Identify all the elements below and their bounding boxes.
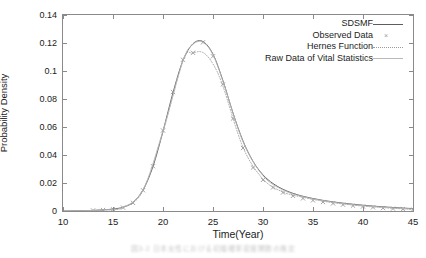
legend-label: SDSMF (260, 18, 373, 30)
y-tick-label: 0.1 (44, 66, 57, 76)
x-tick (163, 207, 164, 211)
y-tick-label: 0.14 (39, 10, 57, 20)
x-tick (313, 207, 314, 211)
x-tick (313, 15, 314, 19)
legend-swatch-hernes-function (373, 41, 408, 53)
legend-item: SDSMF (260, 18, 408, 30)
x-tick-label: 40 (358, 216, 369, 227)
legend-swatch-sdsmf (373, 18, 408, 30)
legend-swatch-observed-data: × (373, 30, 408, 42)
series-sdsmf (63, 41, 413, 211)
data-point-marker (271, 185, 275, 189)
x-tick (213, 15, 214, 19)
legend-label: Observed Data (260, 30, 373, 42)
legend-item: Raw Data of Vital Statistics (260, 53, 408, 65)
x-tick (263, 15, 264, 19)
legend-item: Observed Data × (260, 30, 408, 42)
y-tick (63, 211, 67, 212)
cross-marker-icon: × (384, 32, 388, 39)
x-tick-label: 30 (258, 216, 269, 227)
x-tick-label: 20 (158, 216, 169, 227)
legend-label: Hernes Function (260, 41, 373, 53)
y-tick (63, 99, 67, 100)
y-tick (63, 155, 67, 156)
y-tick-label: 0 (52, 206, 57, 216)
x-tick (413, 15, 414, 19)
figure-caption: 図3-2 日本女性における初婚確率密度関数の推定 (0, 243, 426, 253)
y-tick (409, 43, 413, 44)
y-tick (409, 211, 413, 212)
y-tick (409, 155, 413, 156)
data-point-marker (251, 166, 255, 170)
x-tick-label: 45 (408, 216, 419, 227)
y-tick (409, 183, 413, 184)
y-axis-label: Probability Density (0, 14, 10, 212)
y-tick (409, 127, 413, 128)
x-tick-label: 35 (308, 216, 319, 227)
x-axis-label: Time(Year) (62, 228, 414, 240)
legend-swatch-raw-data (373, 53, 408, 65)
y-tick (63, 183, 67, 184)
y-tick (409, 71, 413, 72)
figure: Probability Density SDSMF Observed Data … (0, 0, 426, 258)
x-tick (363, 207, 364, 211)
x-tick (113, 15, 114, 19)
series-observed-data (91, 40, 413, 211)
x-tick (363, 15, 364, 19)
y-tick (63, 71, 67, 72)
chart-legend: SDSMF Observed Data × Hernes Function Ra… (258, 17, 410, 65)
legend-item: Hernes Function (260, 41, 408, 53)
y-tick-label: 0.12 (39, 38, 57, 48)
data-point-marker (261, 178, 265, 182)
y-tick-label: 0.02 (39, 178, 57, 188)
series-hernes-function (63, 52, 413, 211)
x-tick (213, 207, 214, 211)
y-tick-label: 0.04 (39, 150, 57, 160)
x-tick-label: 10 (58, 216, 69, 227)
y-tick (63, 15, 67, 16)
x-tick (163, 15, 164, 19)
x-tick (263, 207, 264, 211)
x-tick-label: 25 (208, 216, 219, 227)
x-tick (113, 207, 114, 211)
series-raw-data-of-vital-statistics (63, 41, 413, 211)
y-tick-label: 0.06 (39, 122, 57, 132)
x-tick (413, 207, 414, 211)
y-tick (409, 99, 413, 100)
x-tick-label: 15 (108, 216, 119, 227)
legend-label: Raw Data of Vital Statistics (260, 53, 373, 65)
y-tick (63, 43, 67, 44)
y-tick (63, 127, 67, 128)
y-tick-label: 0.08 (39, 94, 57, 104)
plot-area: SDSMF Observed Data × Hernes Function Ra… (62, 14, 414, 212)
y-tick (409, 15, 413, 16)
